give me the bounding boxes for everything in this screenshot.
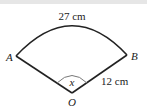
point-b-label: B	[131, 50, 138, 62]
radius-oa	[16, 56, 72, 93]
center-o-label: O	[68, 96, 76, 108]
sector-diagram: 27 cm 12 cm x A B O	[0, 0, 147, 109]
angle-label: x	[69, 76, 75, 88]
point-a-label: A	[5, 51, 13, 63]
radius-ob	[72, 55, 127, 93]
radius-label: 12 cm	[101, 75, 129, 87]
arc-length-label: 27 cm	[58, 10, 86, 22]
arc-ab	[16, 26, 127, 56]
